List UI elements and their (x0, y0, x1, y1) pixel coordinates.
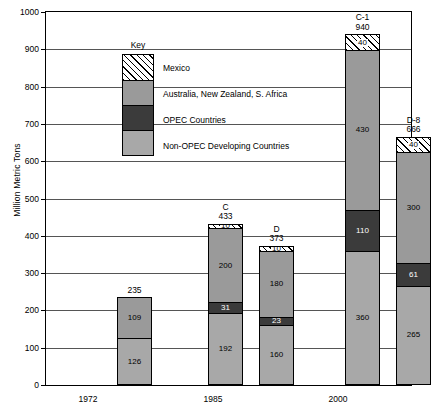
y-axis-tick-label: 200 (25, 306, 39, 314)
legend-swatch-anzsa (123, 80, 153, 105)
y-axis-tick (41, 161, 46, 162)
y-axis-tick (41, 87, 46, 88)
y-axis-tick (41, 310, 46, 311)
bar-segment-value: 40 (357, 39, 368, 47)
bar-2000-d8-header: D-8666 (406, 116, 420, 135)
x-axis-group-1985: 1985 (183, 394, 243, 404)
legend-swatch-mexico (123, 55, 153, 80)
bar-segment-value: 300 (407, 204, 420, 212)
y-axis-tick-label: 400 (25, 232, 39, 240)
bar-segment-nonopec[interactable]: 265 (397, 286, 430, 384)
y-axis-tick-label: 600 (25, 157, 39, 165)
bar-1985-d-header: D373 (269, 225, 283, 244)
bar-2000-c1-header: C-1940 (355, 13, 369, 32)
bar-segment-value: 23 (272, 317, 281, 325)
bar-total: 940 (355, 23, 369, 33)
y-axis-tick-label: 700 (25, 120, 39, 128)
bar-total: 433 (218, 212, 232, 222)
bar-segment-anzsa[interactable]: 180 (260, 251, 293, 317)
bar-segment-nonopec[interactable]: 126 (118, 338, 151, 384)
legend-label-mexico: Mexico (163, 63, 190, 73)
y-axis-tick-label: 0 (34, 381, 39, 389)
x-axis-group-1972: 1972 (58, 394, 118, 404)
bar-segment-value: 40 (408, 141, 419, 149)
x-axis-group-2000: 2000 (308, 394, 368, 404)
bar-segment-value: 192 (219, 345, 232, 353)
y-axis-tick-label: 1000 (20, 8, 39, 16)
bar-segment-value: 109 (128, 314, 141, 322)
legend-label-anzsa: Australia, New Zealand, S. Africa (163, 89, 287, 99)
y-axis-tick-label: 500 (25, 195, 39, 203)
bar-segment-mexico[interactable]: 40 (346, 35, 379, 50)
bar-segment-anzsa[interactable]: 300 (397, 152, 430, 263)
bar-1985-d[interactable]: 1018023160 (259, 246, 294, 385)
bar-total: 666 (406, 125, 420, 135)
bar-2000-c1[interactable]: 40430110360 (345, 34, 380, 385)
bar-segment-value: 10 (271, 247, 282, 251)
y-axis-tick (41, 236, 46, 237)
bar-segment-anzsa[interactable]: 430 (346, 50, 379, 209)
y-axis-tick (41, 12, 46, 13)
bar-segment-anzsa[interactable]: 200 (209, 228, 242, 302)
bar-segment-value: 10 (220, 225, 231, 229)
y-axis-title: Million Metric Tons (12, 110, 22, 250)
legend-label-opec: OPEC Countries (163, 115, 226, 125)
bar-segment-value: 61 (409, 271, 418, 279)
y-axis-tick (41, 273, 46, 274)
bar-segment-opec[interactable]: 110 (346, 210, 379, 251)
bar-1985-c[interactable]: 1020031192 (208, 224, 243, 386)
bar-1985-c-header: C433 (218, 203, 232, 222)
legend-swatch-nonopec (123, 130, 153, 155)
bar-segment-value: 200 (219, 262, 232, 270)
bar-segment-value: 160 (270, 351, 283, 359)
plot-area: 01002003004005006007008009001000 1091262… (45, 11, 412, 386)
y-axis-tick (41, 124, 46, 125)
y-axis-tick-label: 300 (25, 269, 39, 277)
legend-label-nonopec: Non-OPEC Developing Countries (163, 141, 289, 151)
bar-segment-anzsa[interactable]: 109 (118, 298, 151, 338)
bar-total: 235 (127, 286, 141, 296)
bar-1972[interactable]: 109126 (117, 297, 152, 385)
bar-segment-value: 126 (128, 358, 141, 366)
y-axis-tick (41, 385, 46, 386)
bar-1972-header: 235 (127, 286, 141, 296)
bar-segment-value: 110 (356, 227, 369, 235)
legend-title: Key (115, 40, 161, 50)
bar-segment-opec[interactable]: 23 (260, 317, 293, 325)
y-axis-tick-label: 800 (25, 83, 39, 91)
legend-swatch-opec (123, 105, 153, 130)
bar-total: 373 (269, 234, 283, 244)
bar-segment-nonopec[interactable]: 160 (260, 325, 293, 384)
bar-segment-nonopec[interactable]: 360 (346, 251, 379, 385)
bar-segment-value: 360 (356, 314, 369, 322)
bar-segment-nonopec[interactable]: 192 (209, 313, 242, 384)
bar-segment-opec[interactable]: 31 (209, 302, 242, 313)
y-axis-tick-label: 900 (25, 45, 39, 53)
y-axis-tick (41, 49, 46, 50)
bar-segment-value: 180 (270, 280, 283, 288)
y-axis-tick (41, 199, 46, 200)
legend-swatches (122, 54, 154, 156)
bar-segment-mexico[interactable]: 40 (397, 138, 430, 153)
bar-segment-value: 265 (407, 331, 420, 339)
bar-segment-value: 31 (221, 304, 230, 312)
bar-segment-opec[interactable]: 61 (397, 263, 430, 286)
bar-2000-d8[interactable]: 4030061265 (396, 137, 431, 385)
y-axis-tick (41, 348, 46, 349)
y-axis-tick-label: 100 (25, 344, 39, 352)
bar-segment-value: 430 (356, 126, 369, 134)
